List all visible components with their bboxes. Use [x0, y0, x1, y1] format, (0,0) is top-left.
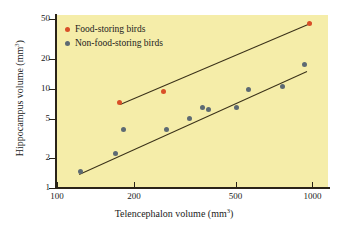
x-tick-label: 100 — [37, 191, 77, 201]
x-tick-label: 500 — [216, 191, 256, 201]
data-point — [200, 105, 205, 110]
x-tick-label: 200 — [114, 191, 154, 201]
legend-item-non-food-storing: Non-food-storing birds — [65, 37, 163, 50]
x-tick-mark — [312, 182, 313, 188]
legend-marker-non-food-storing — [65, 41, 70, 46]
x-axis-title: Telencephalon volume (mm3) — [0, 207, 348, 219]
data-point — [78, 169, 83, 174]
x-tick-mark — [134, 182, 135, 188]
data-point — [187, 116, 192, 121]
trend-line-non-food-storing — [79, 71, 307, 175]
data-point — [307, 21, 312, 26]
y-axis-title: Hippocampus volume (mm3) — [13, 3, 25, 193]
x-tick-label: 1000 — [292, 191, 332, 201]
y-axis-title-superscript: 3 — [13, 43, 20, 46]
data-point — [117, 100, 122, 105]
x-axis-title-tail: ) — [230, 208, 233, 219]
data-point — [121, 127, 126, 132]
data-point — [161, 89, 166, 94]
y-axis-line — [55, 14, 57, 189]
scatter-chart-figure: Food-storing birds Non-food-storing bird… — [0, 0, 348, 237]
legend-label-non-food-storing: Non-food-storing birds — [75, 38, 163, 49]
x-tick-mark — [57, 182, 58, 188]
y-axis-title-text: Hippocampus volume (mm — [14, 47, 25, 156]
plot-area: Food-storing birds Non-food-storing bird… — [57, 15, 328, 188]
x-tick-mark — [236, 182, 237, 188]
data-point — [246, 87, 251, 92]
y-axis-title-tail: ) — [14, 40, 25, 43]
data-point — [280, 84, 285, 89]
x-axis-title-text: Telencephalon volume (mm — [115, 208, 227, 219]
legend-label-food-storing: Food-storing birds — [75, 24, 145, 35]
data-point — [164, 127, 169, 132]
data-point — [206, 107, 211, 112]
legend-marker-food-storing — [65, 27, 70, 32]
legend-item-food-storing: Food-storing birds — [65, 23, 163, 36]
chart-legend: Food-storing birds Non-food-storing bird… — [65, 23, 163, 51]
data-point — [234, 105, 239, 110]
x-axis-line — [55, 187, 330, 189]
data-point — [302, 62, 307, 67]
